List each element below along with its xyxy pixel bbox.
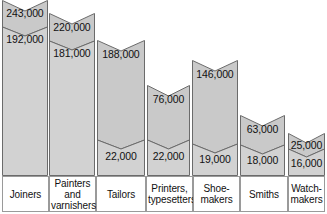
bar-upper-segment-printers-typesetters — [148, 86, 190, 150]
category-label-text-shoemakers: Shoe-makers — [195, 183, 238, 205]
bar-chart: 243,000192,000220,000181,000188,00022,00… — [0, 0, 327, 214]
bar-shape-watchmakers — [288, 133, 325, 176]
bar-lower-segment-painters-and-varnishers — [50, 41, 95, 176]
bar-printers-typesetters: 76,00022,000 — [147, 85, 190, 176]
bar-joiners: 243,000192,000 — [2, 0, 48, 176]
category-label-line: Smiths — [242, 189, 286, 200]
category-label-text-tailors: Tailors — [98, 189, 144, 200]
bar-shape-printers-typesetters — [147, 85, 190, 176]
category-label-line: Watch- — [290, 183, 323, 194]
category-label-painters-and-varnishers: Paintersandvarnishers — [49, 176, 96, 212]
bar-shape-joiners — [2, 0, 48, 176]
category-label-line: Joiners — [4, 189, 47, 200]
bar-painters-and-varnishers: 220,000181,000 — [49, 13, 95, 176]
bar-shape-shoemakers — [192, 60, 238, 176]
bar-shape-painters-and-varnishers — [49, 13, 95, 176]
bar-watchmakers: 25,00016,000 — [288, 133, 325, 176]
category-label-line: Painters — [51, 178, 94, 189]
category-label-line: Printers, — [148, 183, 191, 194]
category-label-text-joiners: Joiners — [4, 189, 47, 200]
bar-tailors: 188,00022,000 — [97, 40, 145, 176]
bar-upper-segment-shoemakers — [193, 61, 238, 154]
bar-smiths: 63,00018,000 — [240, 115, 285, 176]
category-label-line: Tailors — [98, 189, 144, 200]
category-label-text-watchmakers: Watch-makers — [290, 183, 323, 205]
category-label-line: makers — [290, 194, 323, 205]
category-label-line: Shoe- — [195, 183, 238, 194]
bar-upper-segment-tailors — [98, 41, 145, 150]
category-label-text-printers-typesetters: Printers,typesetters — [148, 183, 191, 205]
bar-shape-smiths — [240, 115, 285, 176]
category-label-shoemakers: Shoe-makers — [193, 176, 240, 212]
category-label-joiners: Joiners — [2, 176, 49, 212]
bar-shape-tailors — [97, 40, 145, 176]
category-label-line: and — [51, 189, 94, 200]
category-label-table: JoinersPaintersandvarnishersTailorsPrint… — [0, 176, 327, 214]
category-label-text-smiths: Smiths — [242, 189, 286, 200]
category-label-line: typesetters — [148, 194, 191, 205]
category-label-smiths: Smiths — [240, 176, 288, 212]
category-label-tailors: Tailors — [96, 176, 146, 212]
bar-shoemakers: 146,00019,000 — [192, 60, 238, 176]
category-label-line: makers — [195, 194, 238, 205]
category-label-text-painters-and-varnishers: Paintersandvarnishers — [51, 178, 94, 211]
chart-plot-area: 243,000192,000220,000181,000188,00022,00… — [0, 0, 327, 176]
category-label-printers-typesetters: Printers,typesetters — [146, 176, 193, 212]
category-label-watchmakers: Watch-makers — [288, 176, 325, 212]
bar-lower-segment-joiners — [3, 27, 48, 176]
category-label-line: varnishers — [51, 200, 94, 211]
